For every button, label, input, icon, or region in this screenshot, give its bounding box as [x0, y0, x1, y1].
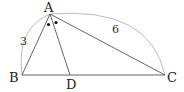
length-label-ab: 3 [20, 35, 27, 48]
angle-mark-dot-right [54, 21, 57, 24]
vertex-label-d: D [66, 77, 76, 92]
vertex-label-b: B [9, 70, 19, 85]
length-label-ac: 6 [112, 23, 119, 36]
angle-mark-dot-left [47, 23, 50, 26]
triangle-diagram: A B D C 3 6 [0, 0, 184, 92]
vertex-label-c: C [167, 70, 177, 85]
vertex-label-a: A [43, 0, 54, 15]
